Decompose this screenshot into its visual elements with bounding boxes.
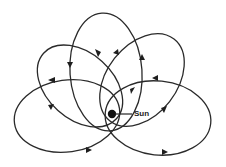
sun-icon — [108, 110, 116, 118]
arrow-icon — [130, 87, 135, 94]
sun-label: Sun — [134, 109, 149, 118]
orbit-bottom-left — [10, 73, 125, 159]
arrow-icon — [67, 62, 73, 68]
arrow-icon — [48, 104, 54, 110]
orbit-right — [101, 76, 214, 161]
arrow-icon — [162, 149, 168, 155]
rosette-orbit-diagram — [0, 0, 226, 167]
orbits — [10, 11, 215, 161]
arrow-icon — [113, 49, 119, 55]
